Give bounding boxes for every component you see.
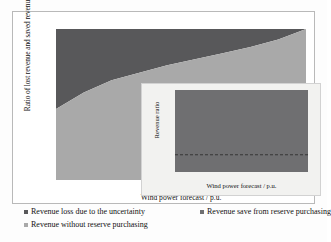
inset-area-fill [175, 90, 308, 172]
legend-row-top: Revenue loss due to the uncertainty [24, 207, 145, 216]
inset-area-svg [175, 90, 308, 172]
legend-item-revenue-loss: Revenue loss due to the uncertainty [24, 207, 145, 216]
inset-y-axis-title: Revenue ratio [153, 90, 163, 150]
legend-item-revenue-save: Revenue save from reserve purchasing [200, 207, 331, 216]
legend-swatch-icon-loss [24, 210, 28, 214]
legend-label-without: Revenue without reserve purchasing [31, 220, 148, 229]
main-chart-frame: Ratio of lost revenue and saved revenue … [12, 11, 315, 204]
legend-swatch-icon-save [200, 210, 204, 214]
inset-plot-area: 100%90%80%70%60%50%40%30%20%10%0% 0.050.… [175, 90, 308, 172]
legend-label-save: Revenue save from reserve purchasing [207, 207, 331, 216]
legend-swatch-icon-without [24, 223, 28, 227]
chart-legend: Revenue loss due to the uncertainty Reve… [24, 207, 314, 237]
inset-chart: Revenue ratio 100%90%80%70%60%50%40%30%2… [141, 83, 321, 196]
legend-item-revenue-without: Revenue without reserve purchasing [24, 220, 148, 229]
legend-label-loss: Revenue loss due to the uncertainty [31, 207, 145, 216]
legend-row-bottom: Revenue without reserve purchasing [24, 220, 148, 229]
main-y-axis-title: Ratio of lost revenue and saved revenue [23, 0, 35, 114]
inset-x-axis-title: Wind power forecast / p.u. [175, 182, 308, 189]
